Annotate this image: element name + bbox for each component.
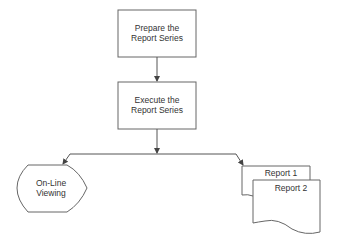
online-label: On-Line Viewing xyxy=(20,178,82,198)
execute-label: Execute the Report Series xyxy=(118,95,196,115)
edge-to-online xyxy=(63,154,70,164)
prepare-label-line1: Prepare the xyxy=(118,23,196,33)
execute-label-line2: Report Series xyxy=(118,105,196,115)
report1-label: Report 1 xyxy=(252,168,310,178)
edge-to-report xyxy=(236,154,243,165)
online-label-line1: On-Line xyxy=(20,178,82,188)
execute-label-line1: Execute the xyxy=(118,95,196,105)
prepare-label: Prepare the Report Series xyxy=(118,23,196,43)
report2-label: Report 2 xyxy=(262,183,320,193)
prepare-label-line2: Report Series xyxy=(118,33,196,43)
online-label-line2: Viewing xyxy=(20,188,82,198)
